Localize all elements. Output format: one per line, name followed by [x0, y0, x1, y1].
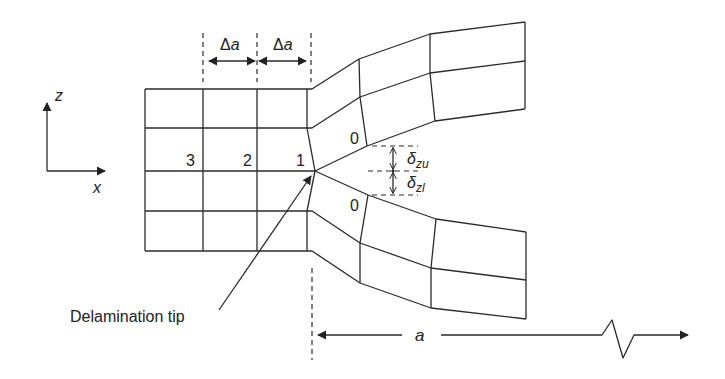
element-length-dimensions: Δa Δa	[203, 33, 311, 82]
coordinate-axes: z x	[47, 87, 105, 196]
node-1-label: 1	[296, 152, 305, 169]
node-2-label: 2	[243, 152, 252, 169]
node-0-lower-label: 0	[350, 197, 359, 214]
delamination-tip-label: Delamination tip	[70, 308, 185, 325]
opening-displacement: δzu δzl	[368, 146, 429, 195]
delta-zl-label: δzl	[407, 174, 425, 195]
delta-a-label-1: Δa	[220, 36, 240, 53]
node-labels: 3 2 1 0 0	[186, 130, 359, 214]
node-0-upper-label: 0	[350, 130, 359, 147]
x-axis-label: x	[92, 179, 102, 196]
tip-pointer-arrow	[219, 176, 311, 310]
crack-length-dimension: a	[312, 268, 688, 360]
z-axis-label: z	[54, 87, 63, 104]
delta-a-label-2: Δa	[273, 36, 293, 53]
node-3-label: 3	[186, 152, 195, 169]
delta-zu-label: δzu	[407, 150, 429, 171]
crack-length-label: a	[415, 326, 424, 345]
delamination-mesh-diagram: z x Δa Δa	[0, 0, 725, 379]
intact-mesh	[145, 89, 315, 251]
upper-arm-mesh	[307, 22, 525, 171]
